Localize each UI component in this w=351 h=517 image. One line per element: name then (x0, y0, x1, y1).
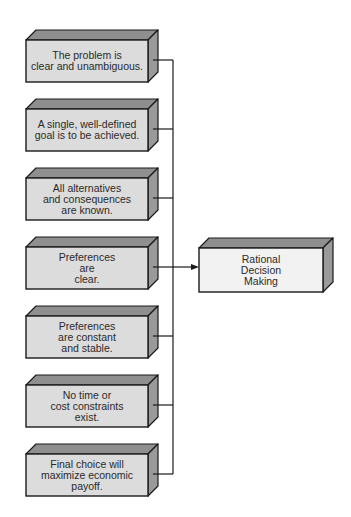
box-side-face (148, 375, 158, 427)
condition-7-label: Final choice will maximize economic payo… (26, 454, 148, 496)
box-side-face (148, 306, 158, 358)
box-top-face (26, 99, 158, 109)
box-top-face (199, 238, 333, 248)
box-side-face (148, 237, 158, 289)
condition-4-label: Preferences are clear. (26, 247, 148, 289)
box-top-face (26, 237, 158, 247)
box-top-face (26, 30, 158, 40)
box-side-face (148, 444, 158, 496)
condition-2-label: A single, well-defined goal is to be ach… (26, 109, 148, 151)
connector-lines (153, 60, 199, 474)
condition-6-label: No time or cost constraints exist. (26, 385, 148, 427)
outcome-label: Rational Decision Making (199, 248, 323, 292)
condition-5-label: Preferences are constant and stable. (26, 316, 148, 358)
box-side-face (148, 30, 158, 82)
box-top-face (26, 306, 158, 316)
condition-3-label: All alternatives and consequences are kn… (26, 178, 148, 220)
box-side-face (148, 168, 158, 220)
condition-1-label: The problem is clear and unambiguous. (26, 40, 148, 82)
box-side-face (148, 99, 158, 151)
box-side-face (323, 238, 333, 292)
box-top-face (26, 444, 158, 454)
box-top-face (26, 375, 158, 385)
box-top-face (26, 168, 158, 178)
arrow-head-icon (191, 264, 199, 270)
